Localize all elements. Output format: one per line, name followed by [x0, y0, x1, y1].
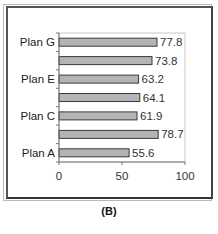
data-label: 55.6 — [132, 147, 154, 159]
data-label: 78.7 — [161, 128, 183, 140]
bar-chart: 55.678.761.964.163.273.877.8 Plan APlan … — [0, 0, 218, 234]
bar-plan-g — [59, 38, 157, 46]
bars-group: 55.678.761.964.163.273.877.8 — [59, 36, 184, 159]
x-tick-label: 0 — [56, 170, 62, 182]
data-label: 73.8 — [155, 55, 177, 67]
bar-plan-a — [59, 149, 129, 157]
bar-plan-f — [59, 57, 152, 65]
data-label: 61.9 — [140, 110, 162, 122]
bar-plan-e — [59, 75, 139, 83]
data-label: 64.1 — [143, 92, 165, 104]
data-label: 63.2 — [142, 73, 164, 85]
bar-plan-b — [59, 130, 158, 138]
x-tick-label: 50 — [116, 170, 129, 182]
category-label: Plan A — [22, 147, 56, 159]
x-tick-label: 100 — [175, 170, 194, 182]
category-label: Plan C — [20, 110, 55, 122]
data-label: 77.8 — [160, 36, 182, 48]
category-label: Plan E — [21, 73, 55, 85]
bar-plan-d — [59, 94, 140, 102]
figure-caption: (B) — [0, 205, 218, 217]
bar-plan-c — [59, 112, 137, 120]
category-label: Plan G — [20, 36, 55, 48]
